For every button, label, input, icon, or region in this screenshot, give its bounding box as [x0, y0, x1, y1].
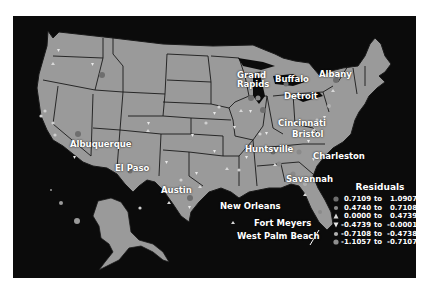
- city-label-bristol: Bristol: [292, 130, 323, 139]
- city-label-detroit: Detroit: [284, 92, 318, 101]
- city-label-fort-meyers: Fort Meyers: [254, 219, 311, 228]
- legend-to: 0.4739: [385, 212, 416, 220]
- city-label-new-orleans: New Orleans: [220, 202, 281, 211]
- medium-circle-icon: [331, 205, 341, 211]
- legend-row: 0.7109 to 1.0907: [331, 195, 416, 204]
- legend-to-label: to: [371, 195, 385, 203]
- legend-row: -1.1057 to -0.7107: [331, 238, 416, 247]
- legend-to: -0.7107: [385, 238, 416, 246]
- city-label-charleston: Charleston: [313, 152, 365, 161]
- legend-title: Residuals: [339, 182, 416, 192]
- city-label-savannah: Savannah: [286, 175, 333, 184]
- legend-to-label: to: [371, 238, 385, 246]
- map-panel: Grand Rapids Buffalo Albany Detroit Cinc…: [13, 16, 416, 278]
- legend-from: 0.4740: [341, 204, 371, 212]
- legend-row: -0.4739 to -0.0001: [331, 221, 416, 230]
- city-label-austin: Austin: [161, 186, 192, 195]
- legend-row: 0.0000 to 0.4739: [331, 212, 416, 221]
- legend-to: -0.0001: [385, 221, 416, 229]
- city-label-albany: Albany: [319, 70, 352, 79]
- legend-row: 0.4740 to 0.7108: [331, 204, 416, 213]
- legend-to-label: to: [371, 212, 385, 220]
- legend-to: -0.4738: [385, 230, 416, 238]
- alaska: [50, 189, 169, 270]
- legend-to: 0.7108: [385, 204, 416, 212]
- medium-light-circle-icon: [331, 231, 341, 237]
- triangle-up-icon: [331, 213, 341, 219]
- legend-to-label: to: [371, 221, 385, 229]
- legend-to-label: to: [371, 230, 385, 238]
- legend-from: 0.7109: [341, 195, 371, 203]
- city-label-west-palm-beach: West Palm Beach: [237, 232, 319, 241]
- legend-from: -0.4739: [341, 221, 371, 229]
- legend-to: 1.0907: [385, 195, 416, 203]
- large-circle-icon: [331, 239, 341, 245]
- city-label-cincinnati: Cincinnati: [278, 119, 326, 128]
- legend-from: 0.0000: [341, 212, 371, 220]
- legend-from: -0.7108: [341, 230, 371, 238]
- legend-row: -0.7108 to -0.4738: [331, 229, 416, 238]
- legend-from: -1.1057: [341, 238, 371, 246]
- city-label-huntsville: Huntsville: [245, 145, 293, 154]
- city-label-buffalo: Buffalo: [275, 75, 309, 84]
- city-label-albuquerque: Albuquerque: [70, 140, 132, 149]
- triangle-down-icon: [331, 222, 341, 228]
- city-label-grand-rapids-line2: Rapids: [237, 80, 269, 89]
- legend-to-label: to: [371, 204, 385, 212]
- residuals-legend: Residuals 0.7109 to 1.0907 0.4740 to 0.7…: [331, 182, 416, 247]
- large-dark-circle-icon: [331, 196, 341, 202]
- city-label-el-paso: El Paso: [115, 164, 149, 173]
- city-label-grand-rapids: Grand Rapids: [237, 71, 269, 89]
